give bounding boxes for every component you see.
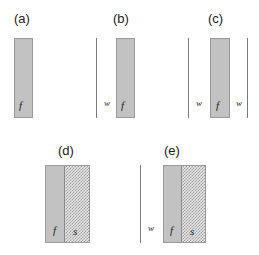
region-divider-d	[64, 166, 65, 242]
panel-a: (a)f	[0, 0, 259, 255]
region-f-a	[15, 39, 32, 117]
gap-width-label-e-1: w	[148, 224, 154, 233]
figure-canvas: (a)f(b)wf(c)wwf(d)fs(e)wfs	[0, 0, 259, 255]
region-label-f-e: f	[170, 225, 173, 236]
gap-width-label-c-1: w	[196, 99, 202, 108]
region-label-f-d: f	[53, 225, 56, 236]
region-s-e	[181, 166, 205, 242]
panel-label-b: (b)	[113, 12, 129, 25]
panel-d: (d)fs	[0, 0, 259, 255]
gap-width-label-b-1: w	[104, 99, 110, 108]
panel-b: (b)wf	[0, 0, 259, 255]
region-label-f-a: f	[19, 100, 22, 111]
panel-label-e: (e)	[164, 144, 180, 157]
region-label-f-c: f	[216, 100, 219, 111]
region-f-e	[164, 166, 181, 242]
panel-e: (e)wfs	[0, 0, 259, 255]
panel-label-c: (c)	[208, 12, 223, 25]
wall-line-e-1	[140, 165, 141, 243]
slab-a	[14, 38, 33, 118]
slab-b	[116, 38, 135, 118]
wall-line-b-1	[96, 38, 97, 118]
region-f-b	[117, 39, 134, 117]
wall-line-c-2	[247, 38, 248, 118]
panel-label-a: (a)	[14, 12, 30, 25]
panel-c: (c)wwf	[0, 0, 259, 255]
region-f-c	[211, 39, 229, 117]
region-f-d	[46, 166, 64, 242]
slab-c	[210, 38, 230, 118]
region-label-s-d: s	[73, 226, 77, 237]
wall-line-c-1	[188, 38, 189, 118]
region-label-s-e: s	[190, 226, 194, 237]
gap-width-label-c-2: w	[236, 99, 242, 108]
panel-label-d: (d)	[58, 144, 74, 157]
region-s-d	[64, 166, 89, 242]
slab-d	[45, 165, 90, 243]
region-divider-e	[181, 166, 182, 242]
slab-e	[163, 165, 206, 243]
region-label-f-b: f	[121, 100, 124, 111]
